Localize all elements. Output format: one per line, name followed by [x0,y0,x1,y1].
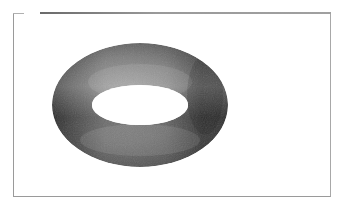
torus-hole [92,85,188,125]
torus-illustration [0,0,344,210]
